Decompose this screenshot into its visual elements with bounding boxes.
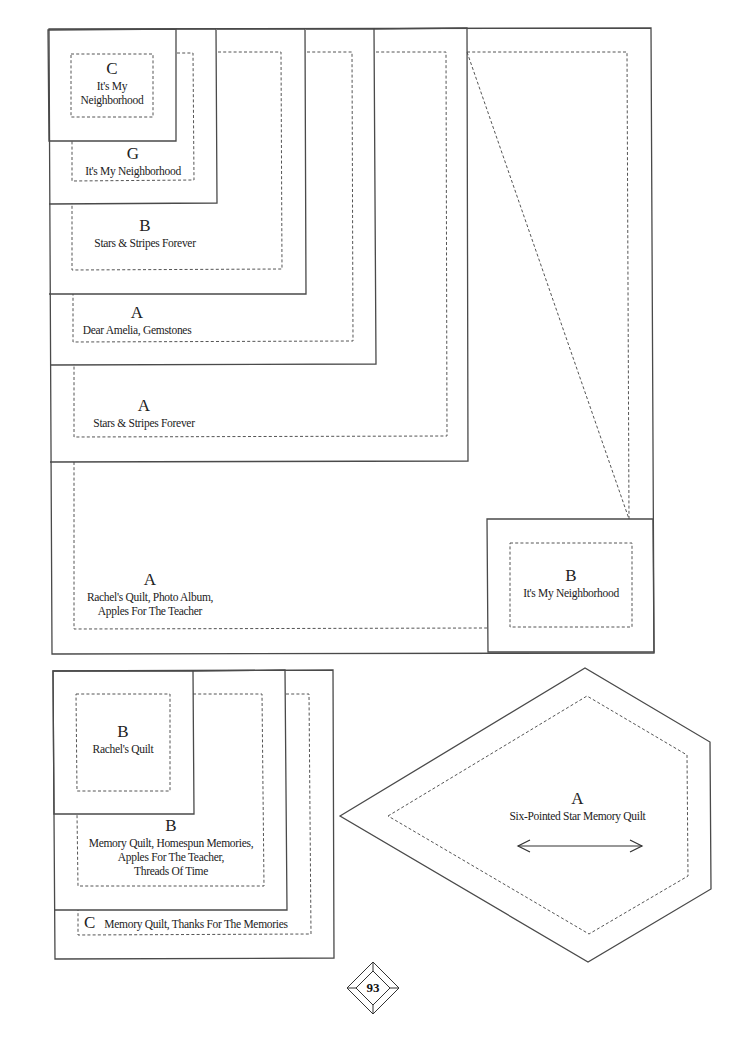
piece-quilt-names: It's My: [71, 79, 153, 93]
label-piece-g-neighborhood: G It's My Neighborhood: [72, 145, 194, 178]
label-piece-a-rachels: A Rachel's Quilt, Photo Album, Apples Fo…: [78, 571, 222, 618]
piece-letter: B: [76, 723, 170, 740]
piece-letter: A: [78, 571, 222, 588]
piece-quilt-names: Stars & Stripes Forever: [80, 236, 210, 250]
piece-quilt-names: It's My Neighborhood: [72, 164, 194, 178]
page-number: 93: [346, 961, 400, 1015]
label-piece-b-corner-neighborhood: B It's My Neighborhood: [510, 567, 632, 600]
piece-quilt-names: Threads Of Time: [78, 864, 264, 878]
piece-quilt-names: Six-Pointed Star Memory Quilt: [505, 809, 650, 823]
label-piece-b-memory: B Memory Quilt, Homespun Memories, Apple…: [78, 817, 264, 878]
piece-letter: A: [80, 397, 208, 414]
piece-quilt-names: Apples For The Teacher,: [78, 850, 264, 864]
piece-quilt-names: Memory Quilt, Thanks For The Memories: [104, 918, 287, 930]
piece-quilt-names: Dear Amelia, Gemstones: [78, 323, 196, 337]
piece-letter: C: [71, 60, 153, 77]
piece-letter: C: [84, 913, 95, 932]
piece-quilt-names: Rachel's Quilt: [76, 742, 170, 756]
piece-quilt-names: Memory Quilt, Homespun Memories,: [78, 836, 264, 850]
piece-letter: B: [78, 817, 264, 834]
piece-letter: A: [505, 790, 650, 807]
piece-quilt-names: Neighborhood: [71, 93, 153, 107]
label-piece-b-rachels: B Rachel's Quilt: [76, 723, 170, 756]
page-number-badge: 93: [346, 961, 400, 1015]
label-piece-a-stars: A Stars & Stripes Forever: [80, 397, 208, 430]
label-piece-a-amelia: A Dear Amelia, Gemstones: [78, 304, 196, 337]
piece-letter: G: [72, 145, 194, 162]
piece-letter: B: [80, 217, 210, 234]
grainline-arrow-icon: [518, 840, 642, 852]
label-piece-a-six-pointed: A Six-Pointed Star Memory Quilt: [505, 790, 650, 823]
piece-quilt-names: Rachel's Quilt, Photo Album,: [78, 590, 222, 604]
piece-a-rachels-sew-line: [467, 52, 629, 519]
piece-quilt-names: Apples For The Teacher: [78, 604, 222, 618]
label-piece-b-stars: B Stars & Stripes Forever: [80, 217, 210, 250]
piece-letter: A: [78, 304, 196, 321]
piece-letter: B: [510, 567, 632, 584]
label-piece-c-memory: C Memory Quilt, Thanks For The Memories: [84, 913, 288, 933]
piece-quilt-names: It's My Neighborhood: [510, 586, 632, 600]
piece-quilt-names: Stars & Stripes Forever: [80, 416, 208, 430]
label-piece-c-neighborhood: C It's My Neighborhood: [71, 60, 153, 107]
